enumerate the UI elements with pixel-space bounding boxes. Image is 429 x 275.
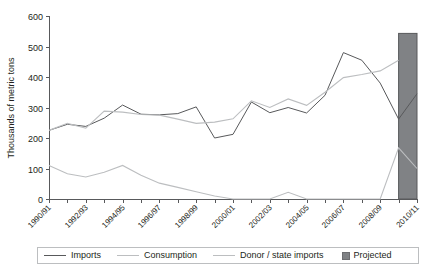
x-axis-tick-labels: 1990/911992/931994/951996/971998/992000/…	[26, 203, 421, 230]
series-lines	[49, 53, 417, 199]
y-tick-label: 600	[28, 12, 43, 22]
y-tick-label: 400	[28, 73, 43, 83]
y-axis-title: Thousands of metric tons	[6, 57, 16, 159]
legend-line-swatch-consumption	[117, 255, 139, 256]
y-tick-label: 200	[28, 134, 43, 144]
chart-figure: 0100200300400500600 1990/911992/931994/9…	[0, 0, 429, 275]
y-tick-label: 0	[38, 195, 43, 205]
x-tick-label: 2004/05	[284, 203, 311, 230]
y-tick-label: 300	[28, 104, 43, 114]
projected-band-rect	[399, 33, 417, 199]
legend-label-consumption: Consumption	[144, 251, 197, 260]
x-tick-label: 2002/03	[247, 203, 274, 230]
legend-item-consumption: Consumption	[117, 251, 197, 260]
y-tick-label: 500	[28, 43, 43, 53]
legend-item-projected: Projected	[342, 251, 392, 260]
x-tick-label: 2008/09	[357, 203, 384, 230]
series-line-imports	[49, 53, 417, 138]
y-tick-label: 100	[28, 165, 43, 175]
legend-item-imports: Imports	[44, 251, 101, 260]
legend-label-imports: Imports	[71, 251, 101, 260]
series-line-donor-state-imports	[49, 148, 417, 199]
legend-label-projected: Projected	[354, 251, 392, 260]
x-tick-label: 1994/95	[100, 203, 127, 230]
y-axis-ticks	[46, 17, 49, 200]
x-tick-label: 2000/01	[210, 203, 237, 230]
y-axis-tick-labels: 0100200300400500600	[28, 12, 43, 205]
x-tick-label: 1996/97	[136, 203, 163, 230]
x-tick-label: 1990/91	[26, 203, 53, 230]
x-tick-label: 1998/99	[173, 203, 200, 230]
projected-band	[399, 33, 417, 199]
chart-legend: Imports Consumption Donor / state import…	[37, 247, 419, 264]
legend-item-donor-state-imports: Donor / state imports	[213, 251, 324, 260]
legend-box-swatch-projected	[342, 252, 350, 260]
x-tick-label: 1992/93	[63, 203, 90, 230]
legend-label-donor-state-imports: Donor / state imports	[240, 251, 324, 260]
x-tick-label: 2006/07	[320, 203, 347, 230]
x-tick-label: 2010/11	[395, 203, 422, 230]
line-chart-plot: 0100200300400500600 1990/911992/931994/9…	[0, 0, 429, 246]
legend-line-swatch-donor-state-imports	[213, 255, 235, 256]
legend-line-swatch-imports	[44, 255, 66, 256]
